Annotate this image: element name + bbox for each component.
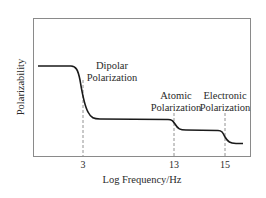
- annotation-electronic-line1: Electronic: [203, 90, 246, 101]
- y-axis-label: Polarizability: [15, 58, 26, 115]
- chart-figure: Dipolar Polarization Atomic Polarization…: [0, 0, 266, 198]
- plot-frame: [34, 19, 251, 157]
- annotation-electronic-line2: Polarization: [200, 102, 251, 113]
- x-tick-15: 15: [220, 159, 230, 170]
- chart-svg: Dipolar Polarization Atomic Polarization…: [0, 0, 266, 198]
- x-tick-3: 3: [81, 159, 86, 170]
- annotation-dipolar-line1: Dipolar: [96, 60, 129, 71]
- annotation-dipolar-line2: Polarization: [87, 72, 138, 83]
- x-axis-label: Log Frequency/Hz: [102, 174, 181, 185]
- annotation-atomic-line2: Polarization: [151, 102, 202, 113]
- annotation-atomic-line1: Atomic: [160, 90, 192, 101]
- x-tick-13: 13: [169, 159, 179, 170]
